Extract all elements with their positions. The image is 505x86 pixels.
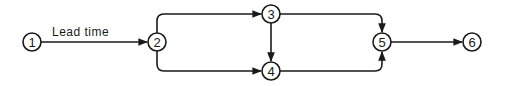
edge-4-5 [280, 52, 382, 71]
node-2: 2 [148, 33, 166, 51]
node-label-6: 6 [468, 35, 475, 50]
node-1: 1 [23, 33, 41, 51]
edge-label-lead-time: Lead time [52, 25, 109, 39]
node-label-2: 2 [153, 35, 160, 50]
node-5: 5 [373, 33, 391, 51]
edge-3-5 [280, 14, 382, 32]
node-label-1: 1 [28, 35, 35, 50]
node-label-4: 4 [267, 64, 274, 79]
node-6: 6 [463, 33, 481, 51]
edge-2-3 [157, 14, 261, 33]
edge-1-2: Lead time [41, 25, 147, 42]
edge-2-4 [157, 51, 261, 71]
node-label-3: 3 [267, 7, 274, 22]
node-3: 3 [262, 5, 280, 23]
node-label-5: 5 [378, 35, 385, 50]
network-diagram: Lead time 1 2 3 4 5 6 [0, 0, 505, 86]
node-4: 4 [262, 62, 280, 80]
